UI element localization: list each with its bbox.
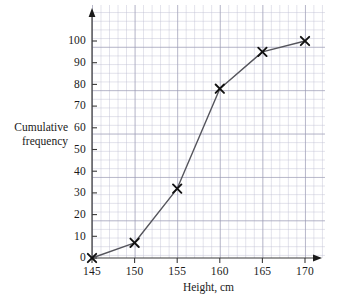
cumulative-frequency-line bbox=[92, 41, 305, 258]
data-point-170 bbox=[301, 37, 309, 45]
data-point-165 bbox=[258, 48, 266, 56]
cumulative-frequency-chart: 0 10 20 30 40 50 60 70 80 90 100 145 150… bbox=[0, 0, 337, 300]
xtick-label-160: 160 bbox=[203, 266, 237, 278]
x-axis-title: Height, cm bbox=[92, 281, 325, 293]
ytick-label-40: 40 bbox=[60, 166, 86, 178]
ytick-label-70: 70 bbox=[60, 100, 86, 112]
ytick-label-90: 90 bbox=[60, 57, 86, 69]
ytick-label-20: 20 bbox=[60, 209, 86, 221]
y-axis-title-line-2: frequency bbox=[0, 134, 68, 148]
data-point-150 bbox=[130, 239, 138, 247]
ytick-label-0: 0 bbox=[60, 252, 86, 264]
ytick-label-80: 80 bbox=[60, 79, 86, 91]
y-axis-title-line-1: Cumulative bbox=[0, 120, 68, 134]
data-point-145 bbox=[88, 254, 96, 262]
ytick-label-30: 30 bbox=[60, 187, 86, 199]
xtick-label-150: 150 bbox=[118, 266, 152, 278]
data-point-155 bbox=[173, 184, 181, 192]
ytick-label-10: 10 bbox=[60, 231, 86, 243]
xtick-label-155: 155 bbox=[160, 266, 194, 278]
chart-series-layer bbox=[0, 0, 337, 300]
ytick-label-100: 100 bbox=[60, 35, 86, 47]
xtick-label-165: 165 bbox=[245, 266, 279, 278]
data-point-markers bbox=[88, 37, 309, 262]
xtick-label-145: 145 bbox=[75, 266, 109, 278]
data-point-160 bbox=[216, 85, 224, 93]
xtick-label-170: 170 bbox=[288, 266, 322, 278]
y-axis-title: Cumulative frequency bbox=[0, 120, 68, 148]
